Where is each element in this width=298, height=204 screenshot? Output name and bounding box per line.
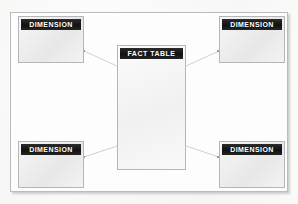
dimension-table-top-left[interactable]: DIMENSION	[18, 16, 84, 63]
dimension-table-top-left-body	[19, 30, 83, 62]
fact-table-title: FACT TABLE	[120, 48, 183, 59]
dimension-table-top-right-title: DIMENSION	[222, 19, 282, 30]
dimension-table-top-right[interactable]: DIMENSION	[219, 16, 285, 63]
fact-table[interactable]: FACT TABLE	[117, 45, 186, 170]
dimension-table-bottom-left-body	[19, 155, 83, 187]
dimension-table-bottom-right-body	[220, 155, 284, 187]
dimension-table-top-right-body	[220, 30, 284, 62]
dimension-table-bottom-right-title: DIMENSION	[222, 144, 282, 155]
dimension-table-top-left-title: DIMENSION	[21, 19, 81, 30]
diagram-canvas: DIMENSION DIMENSION DIMENSION DIMENSION …	[0, 0, 298, 204]
dimension-table-bottom-right[interactable]: DIMENSION	[219, 141, 285, 188]
dimension-table-bottom-left-title: DIMENSION	[21, 144, 81, 155]
dimension-table-bottom-left[interactable]: DIMENSION	[18, 141, 84, 188]
fact-table-body	[118, 59, 185, 169]
